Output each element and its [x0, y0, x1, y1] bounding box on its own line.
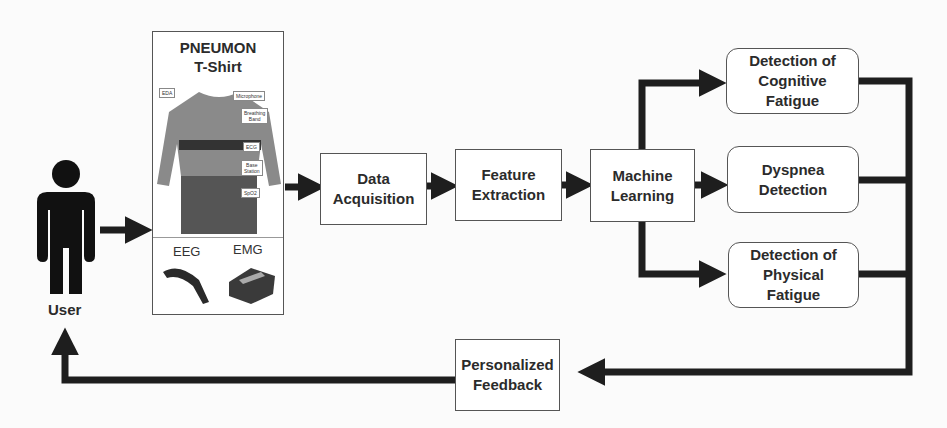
sensor-tag-ecg: ECG [243, 142, 260, 152]
person-icon [33, 158, 99, 298]
machine-learning-box: Machine Learning [590, 149, 695, 222]
sensor-tag-spo2: SpO2 [241, 188, 260, 198]
data-acquisition-box: Data Acquisition [320, 153, 427, 225]
sensor-tag-microphone: Microphone [233, 91, 265, 101]
eeg-headband-icon [159, 262, 214, 307]
dyspnea-detection-box: Dyspnea Detection [727, 146, 859, 213]
arrow-outputs-to-feedback [590, 81, 909, 372]
personalized-feedback-box: Personalized Feedback [455, 339, 560, 411]
user-label: User [48, 301, 81, 318]
emg-device-icon [225, 264, 277, 306]
tshirt-image [157, 84, 281, 234]
physical-fatigue-box: Detection of Physical Fatigue [728, 242, 859, 308]
arrow-ml-to-cognitive [642, 83, 714, 149]
emg-label: EMG [233, 242, 263, 257]
pneumon-tshirt-panel: PNEUMON T-Shirt EDA Microphone Breathing… [152, 31, 284, 315]
sensor-tag-eda: EDA [159, 88, 175, 98]
eeg-label: EEG [173, 244, 200, 259]
arrow-feedback-to-user [65, 340, 455, 380]
sensor-tag-base-station: Base Station [241, 160, 263, 176]
panel-divider [153, 237, 283, 238]
cognitive-fatigue-box: Detection of Cognitive Fatigue [726, 48, 859, 114]
feature-extraction-box: Feature Extraction [455, 149, 562, 221]
shirt-title: PNEUMON T-Shirt [153, 38, 283, 76]
arrow-ml-to-physical [642, 222, 714, 274]
sensor-tag-breathing-band: Breathing Band [241, 108, 268, 124]
